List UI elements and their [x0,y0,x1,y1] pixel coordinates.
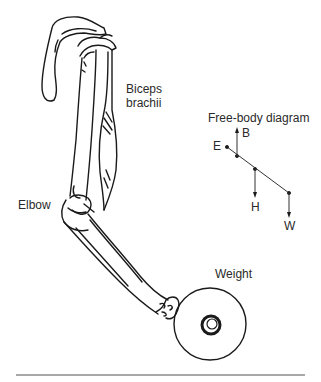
label-point-b: B [242,126,250,140]
biceps-muscle-drawing [99,50,117,210]
label-elbow: Elbow [18,198,51,212]
label-biceps: Biceps brachii [126,82,162,110]
label-point-h: H [251,200,260,214]
arm-lever-illustration [0,0,321,382]
free-body-diagram-title: Free-body diagram [208,111,309,125]
label-point-e: E [213,139,221,153]
forearm-bones-drawing [64,214,168,314]
arrow-w-head [287,212,291,218]
lever-line [227,147,289,193]
bottom-divider [16,374,305,376]
shoulder-joint-drawing [78,35,116,58]
arrow-b-head [235,127,239,133]
label-biceps-line2: brachii [126,96,162,110]
weight-plate-drawing [174,288,246,360]
point-e [225,145,228,148]
label-weight: Weight [215,267,252,281]
arrow-h-head [253,192,257,198]
humerus-drawing [70,50,96,200]
label-biceps-line1: Biceps [126,82,162,96]
label-point-w: W [284,219,295,233]
